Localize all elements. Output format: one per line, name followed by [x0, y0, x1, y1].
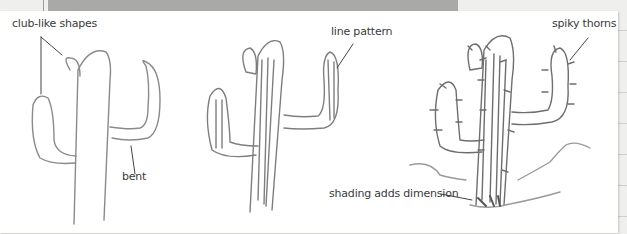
cactus-line-pattern-step2	[207, 41, 338, 212]
label-club-like-shapes: club-like shapes	[12, 17, 97, 30]
label-spiky-thorns: spiky thorns	[552, 17, 616, 30]
label-line-pattern: line pattern	[331, 25, 392, 38]
cactus-thorns-shading-step3	[410, 36, 590, 208]
cactus-outline-step1	[32, 51, 160, 224]
label-bent: bent	[122, 170, 146, 183]
cactus-illustrations	[0, 0, 627, 234]
label-shading: shading adds dimension	[329, 187, 458, 200]
